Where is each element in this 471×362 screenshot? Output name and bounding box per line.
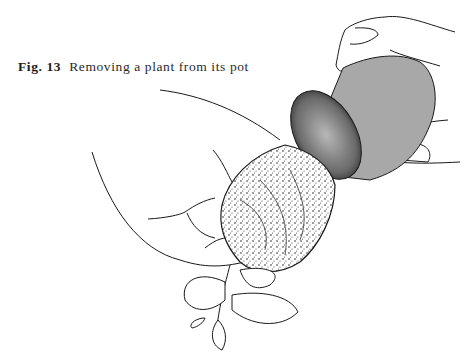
root-ball — [221, 145, 335, 272]
plant-removal-illustration — [0, 0, 471, 362]
plant-leaves — [184, 265, 298, 350]
